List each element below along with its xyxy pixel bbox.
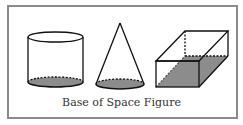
cone-figure [96, 23, 144, 89]
cylinder-top [28, 32, 83, 42]
diagram-caption: Base of Space Figure [0, 96, 243, 109]
cylinder-figure [28, 32, 83, 87]
prism-figure [156, 31, 228, 87]
